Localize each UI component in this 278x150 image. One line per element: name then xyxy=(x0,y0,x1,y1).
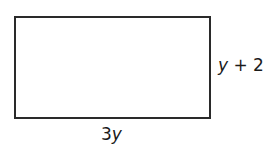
width-coefficient: 3 xyxy=(101,124,112,144)
height-variable: y xyxy=(218,55,228,75)
width-label: 3y xyxy=(101,124,122,144)
height-label: y + 2 xyxy=(218,55,264,75)
rectangle-shape xyxy=(14,16,211,119)
width-variable: y xyxy=(112,124,122,144)
height-constant: + 2 xyxy=(228,55,264,75)
